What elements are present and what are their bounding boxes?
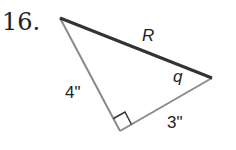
bottom-leg-label: 3" bbox=[167, 113, 183, 132]
angle-label: q bbox=[173, 67, 183, 86]
left-leg-label: 4" bbox=[65, 83, 81, 102]
right-triangle-diagram: R q 4" 3" bbox=[0, 0, 236, 150]
bottom-leg bbox=[120, 78, 212, 131]
left-leg bbox=[60, 18, 120, 131]
hypotenuse-label: R bbox=[142, 26, 154, 45]
hypotenuse bbox=[60, 18, 212, 78]
